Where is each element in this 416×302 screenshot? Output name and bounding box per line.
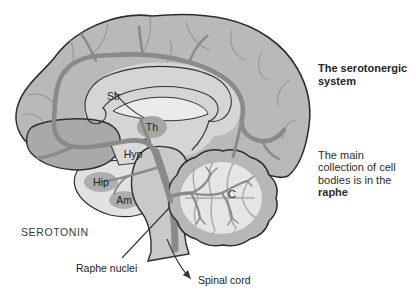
figure-caption-line2: collection of cell [318, 161, 414, 173]
label-striatum: Str [107, 90, 121, 102]
label-thalamus: Th [146, 121, 158, 133]
label-cerebellum: C [228, 188, 236, 200]
label-raphe-nuclei: Raphe nuclei [76, 262, 137, 274]
figure-caption-line1: The main [318, 149, 414, 161]
figure-caption-line3: bodies is in the [318, 174, 414, 186]
label-hypothalamus: Hyp [124, 148, 143, 160]
figure-title: The serotonergic system [318, 62, 414, 87]
label-serotonin: SEROTONIN [21, 226, 89, 238]
label-amygdala: Am [116, 194, 132, 206]
label-spinal-cord: Spinal cord [198, 274, 251, 286]
figure-title-line2: system [318, 75, 414, 88]
figure-title-line1: The serotonergic [318, 62, 414, 75]
figure-caption-line4: raphe [318, 186, 414, 198]
figure-caption: The main collection of cell bodies is in… [318, 149, 414, 199]
label-hippocampus: Hip [93, 176, 109, 188]
figure-serotonergic-system: Str Th Hyp Hip Am C SEROTONIN Raphe nucl… [0, 0, 416, 302]
